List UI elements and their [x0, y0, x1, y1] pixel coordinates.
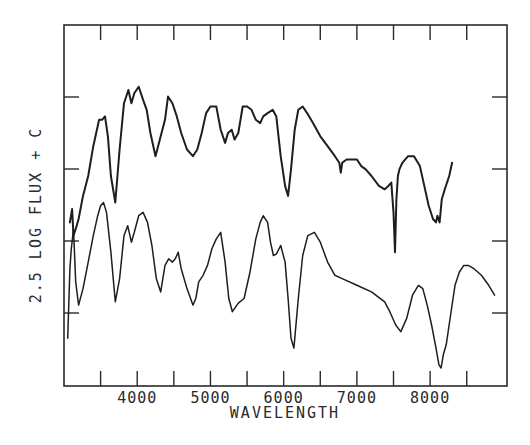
x-tick-label: 4000: [117, 389, 157, 407]
x-axis-title: WAVELENGTH: [230, 404, 340, 422]
lower-spectrum-line: [68, 203, 495, 369]
x-axis-ticks: [101, 25, 467, 386]
x-tick-label: 7000: [337, 389, 377, 407]
y-axis-title: 2.5 LOG FLUX + C: [27, 127, 45, 304]
x-tick-label: 8000: [410, 389, 450, 407]
x-tick-label: 5000: [190, 389, 230, 407]
spectrum-chart: 40005000600070008000 WAVELENGTH 2.5 LOG …: [0, 0, 530, 445]
